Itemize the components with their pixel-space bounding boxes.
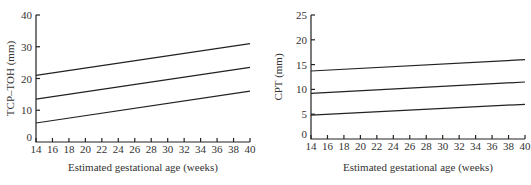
x-tick-label: 26 (404, 140, 416, 152)
y-tick-label: 15 (296, 59, 308, 71)
y-tick-label: 20 (296, 34, 308, 46)
series-line-middle (311, 82, 525, 93)
series-line-lower (311, 104, 525, 115)
x-tick-label: 22 (96, 143, 107, 155)
x-axis-label: Estimated gestational age (weeks) (343, 161, 493, 174)
y-tick-label: 30 (21, 41, 33, 53)
axes (36, 15, 250, 142)
y-axis-label: CPT (mm) (272, 53, 285, 101)
y-tick-label: 40 (21, 9, 33, 21)
x-tick-label: 30 (162, 143, 174, 155)
y-tick-label: 10 (21, 104, 33, 116)
x-tick-label: 34 (195, 143, 207, 155)
axes (311, 15, 525, 139)
series-line-upper (311, 60, 525, 71)
x-tick-label: 36 (487, 140, 499, 152)
y-tick-label: 10 (296, 83, 308, 95)
x-tick-label: 20 (355, 140, 367, 152)
x-tick-label: 28 (421, 140, 433, 152)
y-tick-label: 0 (302, 128, 308, 140)
cpt-chart: 05101520251416182022242628303234363840Es… (272, 9, 531, 174)
x-tick-label: 16 (47, 143, 59, 155)
x-tick-label: 30 (437, 140, 449, 152)
x-tick-label: 24 (113, 143, 125, 155)
charts-canvas: 0102030401416182022242628303234363840Est… (0, 0, 531, 185)
x-tick-label: 18 (63, 143, 75, 155)
x-tick-label: 24 (388, 140, 400, 152)
x-tick-label: 20 (80, 143, 92, 155)
x-tick-label: 32 (454, 140, 465, 152)
x-tick-label: 38 (503, 140, 515, 152)
series-line-middle (36, 67, 250, 99)
series-line-upper (36, 44, 250, 76)
x-tick-label: 34 (470, 140, 482, 152)
x-tick-label: 40 (520, 140, 531, 152)
x-tick-label: 22 (371, 140, 382, 152)
x-tick-label: 36 (212, 143, 224, 155)
tcp-toh-chart: 0102030401416182022242628303234363840Est… (4, 9, 256, 174)
y-tick-label: 25 (296, 9, 308, 21)
x-tick-label: 28 (146, 143, 158, 155)
x-tick-label: 32 (179, 143, 190, 155)
y-tick-label: 0 (27, 131, 33, 143)
x-tick-label: 26 (129, 143, 141, 155)
x-tick-label: 40 (245, 143, 257, 155)
x-tick-label: 38 (228, 143, 240, 155)
x-tick-label: 16 (322, 140, 334, 152)
x-axis-label: Estimated gestational age (weeks) (68, 161, 218, 174)
y-tick-label: 5 (302, 108, 308, 120)
x-tick-label: 18 (338, 140, 350, 152)
x-tick-label: 14 (306, 140, 318, 152)
series-line-lower (36, 91, 250, 123)
y-tick-label: 20 (21, 73, 33, 85)
y-axis-label: TCP–TOH (mm) (4, 41, 17, 117)
x-tick-label: 14 (31, 143, 43, 155)
